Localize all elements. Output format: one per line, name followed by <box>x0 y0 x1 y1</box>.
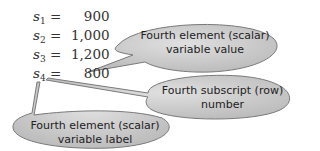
value: 900 <box>66 8 110 24</box>
callout-subscript-text: Fourth subscript (row) number <box>155 84 290 112</box>
callout-label-text: Fourth element (scalar) variable label <box>25 119 165 147</box>
subscript: 3 <box>40 54 46 64</box>
equals-sign: = <box>50 8 61 24</box>
value: 1,000 <box>66 27 110 43</box>
equals-sign: = <box>50 65 61 81</box>
callout-line: Fourth element (scalar) <box>25 119 165 133</box>
callout-line: Fourth element (scalar) <box>135 29 275 43</box>
variable-name: s <box>33 27 40 43</box>
subscript: 1 <box>40 16 46 26</box>
subscript: 4 <box>40 73 46 83</box>
equals-sign: = <box>50 46 61 62</box>
variable-name: s <box>33 46 40 62</box>
callout-line: number <box>155 98 290 112</box>
callout-line: variable label <box>25 133 165 147</box>
subscript: 2 <box>40 35 46 45</box>
value: 1,200 <box>66 46 110 62</box>
equation-s4: s4 = 800 <box>33 65 110 83</box>
equation-s2: s2 = 1,000 <box>33 27 110 45</box>
callout-line: variable value <box>135 43 275 57</box>
equals-sign: = <box>50 27 61 43</box>
variable-name: s <box>33 65 40 81</box>
value: 800 <box>66 65 110 81</box>
equation-s1: s1 = 900 <box>33 8 110 26</box>
callout-value-text: Fourth element (scalar) variable value <box>135 29 275 57</box>
equation-s3: s3 = 1,200 <box>33 46 110 64</box>
variable-name: s <box>33 8 40 24</box>
callout-line: Fourth subscript (row) <box>155 84 290 98</box>
